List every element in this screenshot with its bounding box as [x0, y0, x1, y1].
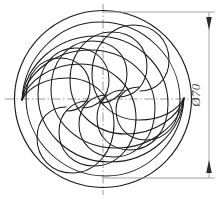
- vane-profile-8: [51, 41, 184, 148]
- arrowhead-bottom: [206, 160, 212, 173]
- dimension-text-outer-diameter: Ø70: [188, 83, 203, 107]
- vane-profile-5: [22, 78, 114, 173]
- engineering-drawing-canvas: Ø70: [0, 0, 224, 200]
- vane-profile-10: [92, 25, 184, 120]
- vane-profile-mirror-group: [26, 25, 184, 176]
- arrowhead-top: [206, 17, 212, 30]
- technical-drawing-screenshot: Ø70: [0, 0, 224, 200]
- vane-profile-group: [22, 22, 184, 176]
- vane-profile-3: [22, 50, 155, 157]
